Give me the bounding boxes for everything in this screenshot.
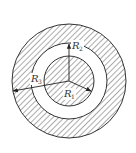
label-r1: R 1 bbox=[63, 88, 76, 100]
concentric-circles-diagram: R 2 R 3 R 1 bbox=[0, 0, 136, 153]
svg-text:2: 2 bbox=[79, 45, 83, 52]
svg-text:1: 1 bbox=[71, 93, 75, 100]
label-r2: R 2 bbox=[71, 40, 84, 52]
label-r3: R 3 bbox=[30, 73, 43, 85]
svg-text:3: 3 bbox=[38, 78, 42, 85]
